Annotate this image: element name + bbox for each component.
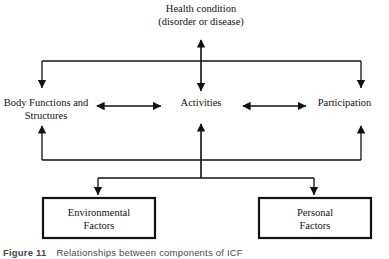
figure-canvas: Health condition (disorder or disease) B…	[0, 0, 389, 259]
node-body-functions-and-structures: Body Functions and Structures	[0, 97, 92, 123]
figure-caption: Figure 11Relationships between component…	[3, 247, 386, 259]
environmental-line2: Factors	[43, 219, 155, 232]
node-activities: Activities	[168, 97, 234, 110]
environmental-factors-label: Environmental Factors	[43, 206, 155, 232]
figure-caption-number: Figure 11	[3, 247, 47, 258]
health-condition-line2: (disorder or disease)	[129, 16, 273, 29]
health-condition-line1: Health condition	[129, 3, 273, 16]
environmental-line1: Environmental	[43, 206, 155, 219]
participation-line1: Participation	[300, 97, 389, 110]
personal-factors-label: Personal Factors	[259, 206, 371, 232]
edge-contextual-bus	[42, 124, 361, 178]
node-participation: Participation	[300, 97, 389, 110]
node-health-condition: Health condition (disorder or disease)	[129, 3, 273, 29]
personal-line2: Factors	[259, 219, 371, 232]
personal-line1: Personal	[259, 206, 371, 219]
body-functions-line2: Structures	[0, 110, 92, 123]
body-functions-line1: Body Functions and	[0, 97, 92, 110]
figure-caption-text: Relationships between components of ICF	[57, 247, 243, 258]
activities-line1: Activities	[168, 97, 234, 110]
edge-context-branch	[98, 178, 314, 195]
